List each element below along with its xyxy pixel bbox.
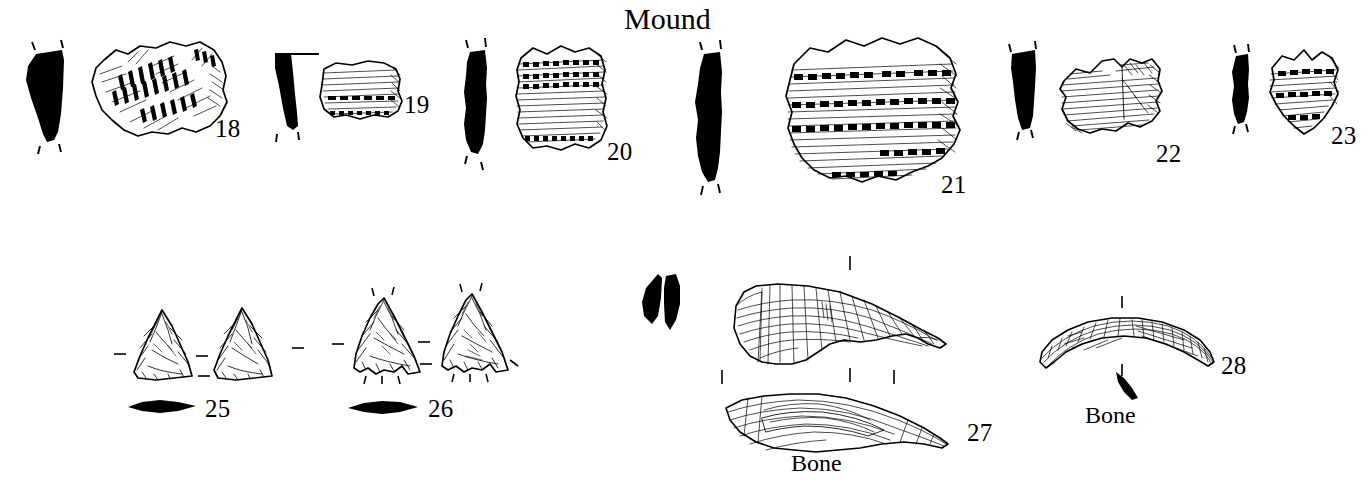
artifact-19-sherd — [312, 53, 412, 129]
artifact-26-reverse — [418, 280, 540, 390]
artifact-20-profile — [452, 38, 500, 178]
artifact-26-cross-section — [346, 398, 424, 416]
artifact-22-sherd — [1050, 45, 1170, 143]
artifact-21-profile — [682, 40, 736, 210]
artifact-plate: Mound — [0, 0, 1368, 495]
artifact-22-profile — [1002, 38, 1050, 148]
artifact-25-reverse — [196, 296, 306, 392]
artifact-27-upper-view — [722, 272, 972, 378]
artifact-number-19: 19 — [404, 92, 430, 117]
artifact-18-sherd — [82, 36, 234, 148]
artifact-28-material-label: Bone — [1085, 403, 1136, 427]
artifact-28-cross-section — [1112, 368, 1146, 404]
artifact-number-26: 26 — [428, 396, 454, 421]
artifact-20-sherd — [505, 40, 617, 162]
artifact-18-profile — [14, 36, 76, 156]
plate-title: Mound — [624, 4, 711, 34]
artifact-number-28: 28 — [1221, 353, 1247, 378]
artifact-number-20: 20 — [607, 139, 633, 164]
artifact-21-sherd — [770, 30, 970, 195]
artifact-27-profile — [636, 268, 700, 340]
artifact-number-23: 23 — [1331, 123, 1357, 148]
artifact-27-lower-view — [718, 386, 974, 458]
artifact-number-25: 25 — [205, 396, 231, 421]
artifact-number-21: 21 — [941, 172, 967, 197]
artifact-number-22: 22 — [1156, 141, 1182, 166]
artifact-25-cross-section — [126, 398, 202, 416]
artifact-27-material-label: Bone — [791, 451, 842, 475]
artifact-number-18: 18 — [215, 116, 241, 141]
artifact-number-27: 27 — [967, 420, 993, 445]
